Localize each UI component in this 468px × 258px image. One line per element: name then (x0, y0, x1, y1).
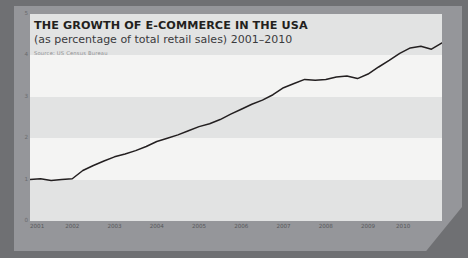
chart-subtitle: (as percentage of total retail sales) 20… (34, 33, 334, 47)
x-tick-label-2007: 2007 (276, 223, 290, 229)
y-tick-label-4: 4 (16, 51, 28, 57)
x-tick-label-2010: 2010 (396, 223, 410, 229)
x-tick-label-2004: 2004 (150, 223, 164, 229)
x-tick-label-2005: 2005 (192, 223, 206, 229)
header-block: THE GROWTH OF E-COMMERCE IN THE USA (as … (34, 19, 334, 56)
x-axis-ticks: 2001200220032004200520062007200820092010 (30, 223, 442, 235)
x-tick-label-2006: 2006 (234, 223, 248, 229)
x-tick-label-2001: 2001 (30, 223, 44, 229)
x-tick-label-2008: 2008 (319, 223, 333, 229)
x-tick-label-2009: 2009 (361, 223, 375, 229)
y-tick-label-3: 3 (16, 93, 28, 99)
y-tick-label-5: 5 (16, 10, 28, 16)
y-tick-label-2: 2 (16, 134, 28, 140)
x-tick-label-2002: 2002 (65, 223, 79, 229)
page-title: THE GROWTH OF E-COMMERCE IN THE USA (34, 19, 334, 32)
series-polyline (30, 43, 442, 180)
y-tick-label-1: 1 (16, 176, 28, 182)
chart-screenshot: 543210 200120022003200420052006200720082… (0, 0, 468, 258)
x-tick-label-2003: 2003 (107, 223, 121, 229)
y-tick-label-0: 0 (16, 217, 28, 223)
source-note: Source: US Census Bureau (34, 50, 334, 56)
y-axis-ticks: 543210 (14, 14, 28, 221)
